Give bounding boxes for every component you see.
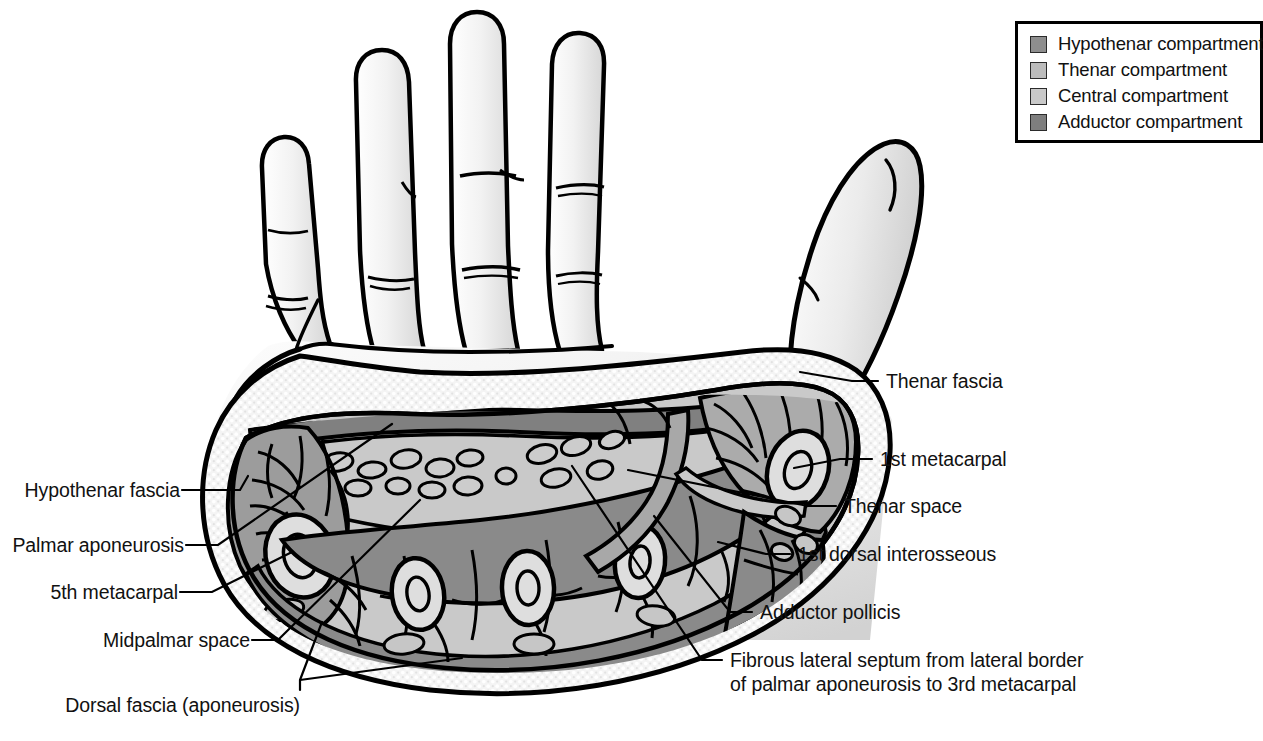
legend-item-adductor: Adductor compartment [1030,109,1260,135]
label-hypothenar-fascia: Hypothenar fascia [8,478,180,502]
label-midpalmar-space: Midpalmar space [60,628,250,652]
label-1st-metacarpal: 1st metacarpal [880,447,1007,471]
legend-swatch-thenar [1030,62,1047,79]
label-thenar-fascia: Thenar fascia [886,369,1003,393]
label-adductor-pollicis: Adductor pollicis [760,600,900,624]
legend-label-central: Central compartment [1058,86,1228,106]
label-1st-dorsal-interosseous: 1st dorsal interosseous [798,542,996,566]
legend-label-adductor: Adductor compartment [1058,112,1242,132]
label-thenar-space: Thenar space [844,494,962,518]
legend-swatch-adductor [1030,114,1047,131]
legend-item-hypothenar: Hypothenar compartment [1030,31,1260,57]
label-palmar-aponeurosis: Palmar aponeurosis [8,533,184,557]
label-dorsal-fascia: Dorsal fascia (aponeurosis) [60,693,300,717]
legend-label-hypothenar: Hypothenar compartment [1058,34,1263,54]
palm-cross-section [228,383,858,685]
legend-label-thenar: Thenar compartment [1058,60,1227,80]
legend-item-thenar: Thenar compartment [1030,57,1260,83]
legend-swatch-central [1030,88,1047,105]
compartment-legend: Hypothenar compartment Thenar compartmen… [1015,21,1263,143]
legend-item-central: Central compartment [1030,83,1260,109]
legend-swatch-hypothenar [1030,36,1047,53]
label-fibrous-septum-line2: of palmar aponeurosis to 3rd metacarpal [730,672,1076,696]
label-5th-metacarpal: 5th metacarpal [8,580,178,604]
label-fibrous-septum-line1: Fibrous lateral septum from lateral bord… [730,648,1083,672]
